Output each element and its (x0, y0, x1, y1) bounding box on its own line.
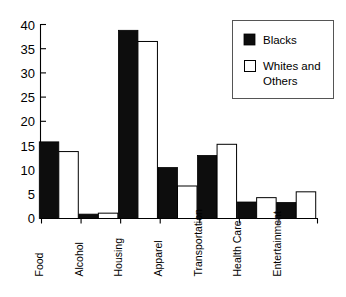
y-tick-label-15: 15 (21, 139, 35, 154)
filled-square-icon (244, 34, 255, 45)
y-tick-label-25: 25 (21, 90, 35, 105)
chart-canvas: 40 35 30 25 20 15 10 5 0 FoodAlcoholHous… (0, 0, 346, 297)
bar-food-blacks (39, 142, 59, 219)
x-label-health-care: Health Care (231, 220, 243, 276)
legend-label-blacks: Blacks (263, 34, 297, 46)
y-tick-label-20: 20 (21, 114, 35, 129)
legend: Blacks Whites and Others (233, 21, 334, 99)
bar-entertainment-whites-and-others (296, 192, 316, 219)
bar-transportation-whites-and-others (217, 144, 237, 218)
bar-apparel-blacks (158, 168, 178, 219)
y-tick-label-35: 35 (21, 42, 35, 57)
x-label-food: Food (33, 252, 45, 276)
legend-label-whites-line1: Whites and (263, 60, 321, 72)
x-label-alcohol: Alcohol (73, 242, 85, 276)
bar-chart: 40 35 30 25 20 15 10 5 0 FoodAlcoholHous… (0, 0, 346, 297)
bar-transportation-blacks (198, 155, 218, 218)
bar-alcohol-whites-and-others (98, 213, 118, 218)
x-label-housing: Housing (112, 238, 124, 277)
bar-food-whites-and-others (59, 152, 79, 219)
y-tick-label-5: 5 (28, 187, 35, 202)
bar-housing-whites-and-others (138, 41, 158, 218)
x-label-entertainment: Entertainment (271, 211, 283, 276)
legend-label-whites-line2: Others (263, 75, 298, 87)
y-tick-label-0: 0 (28, 211, 35, 226)
empty-square-icon (245, 61, 256, 72)
x-label-apparel: Apparel (152, 240, 164, 276)
bar-housing-blacks (118, 30, 137, 218)
bar-health-care-blacks (237, 202, 257, 218)
y-tick-label-10: 10 (21, 163, 35, 178)
bar-alcohol-blacks (79, 214, 99, 218)
y-tick-label-40: 40 (21, 18, 35, 33)
x-label-transportation: Transportation (192, 209, 204, 276)
y-tick-label-30: 30 (21, 66, 35, 81)
